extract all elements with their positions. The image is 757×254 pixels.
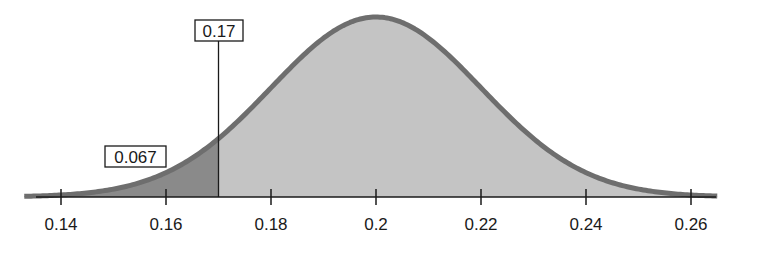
x-tick-label: 0.16 <box>149 215 182 234</box>
cutoff-label-box: 0.17 <box>195 20 243 41</box>
tail-area-label-box: 0.067 <box>105 146 166 167</box>
x-tick-label: 0.26 <box>674 215 707 234</box>
x-tick-label: 0.22 <box>464 215 497 234</box>
curve-body-area <box>219 17 718 197</box>
x-tick-label: 0.2 <box>364 215 388 234</box>
x-tick-label: 0.24 <box>569 215 602 234</box>
x-tick-label: 0.18 <box>254 215 287 234</box>
tail-area-label: 0.067 <box>114 148 157 167</box>
cutoff-label: 0.17 <box>202 22 235 41</box>
x-tick-label: 0.14 <box>44 215 77 234</box>
normal-distribution-chart: 0.140.160.180.20.220.240.26 0.17 0.067 <box>0 0 757 254</box>
